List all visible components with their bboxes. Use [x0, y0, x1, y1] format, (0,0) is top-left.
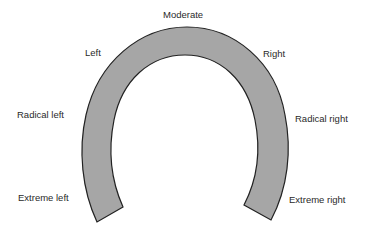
label-left: Left — [85, 48, 101, 58]
label-extreme-right: Extreme right — [289, 195, 346, 205]
label-radical-left: Radical left — [17, 110, 64, 120]
label-radical-right: Radical right — [295, 114, 348, 124]
horseshoe-shape — [82, 27, 288, 222]
label-right: Right — [263, 49, 285, 59]
label-extreme-left: Extreme left — [18, 193, 69, 203]
label-moderate: Moderate — [163, 10, 203, 20]
